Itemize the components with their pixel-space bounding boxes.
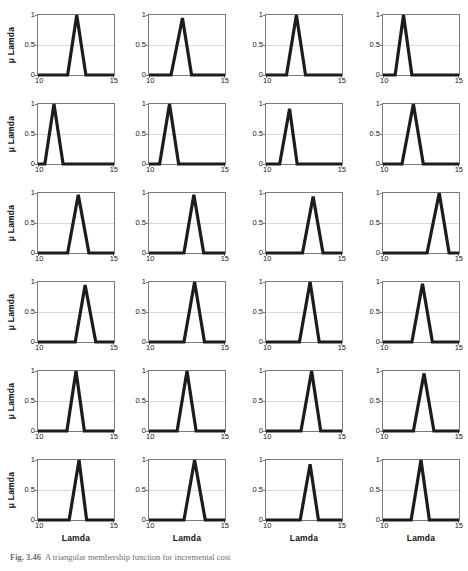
curve-path [149,282,225,342]
y-tick-label: 0.5 [370,41,380,49]
y-tick-label: 0.5 [25,397,35,405]
x-tick-label: 10 [380,344,388,352]
y-tick-label: 1 [376,189,380,197]
y-axis-label: μ Lamda [4,370,18,432]
membership-function-curve [383,193,459,253]
membership-function-curve [266,371,342,431]
y-tick-label: 0.5 [25,486,35,494]
plot-area: 10.501015 [265,370,343,432]
y-tick-label: 0.5 [136,308,146,316]
y-tick-label: 0.5 [370,486,380,494]
x-tick-label: 15 [338,344,346,352]
y-tick-label: 0.5 [25,41,35,49]
subplot-panel: μ Lamda10.501015 [0,93,117,182]
plot-area: 10.501015 [265,192,343,254]
x-tick-label: 10 [35,344,43,352]
y-tick-label: 1 [259,11,263,19]
y-tick-label: 1 [142,456,146,464]
y-tick-label: 0.5 [136,130,146,138]
plot-area: 10.501015 [37,281,115,343]
y-tick-label: 0.5 [253,397,263,405]
y-tick-label: 1 [376,367,380,375]
curve-path [38,15,114,75]
membership-function-curve [266,104,342,164]
x-tick-label: 10 [35,433,43,441]
plot-area: 10.501015 [148,103,226,165]
membership-function-curve [383,282,459,342]
y-axis-label-text: μ Lamda [6,205,16,241]
membership-function-curve [383,371,459,431]
y-tick-label: 0.5 [253,219,263,227]
membership-function-curve [38,460,114,520]
subplot-panel: 10.501015 [234,182,351,271]
x-tick-label: 10 [146,77,154,85]
subplot-panel: 10.501015 [234,271,351,360]
membership-function-curve [149,460,225,520]
x-tick-label: 15 [455,255,463,263]
y-axis-label: μ Lamda [4,281,18,343]
curve-path [38,195,114,253]
y-tick-label: 1 [31,278,35,286]
y-tick-label: 1 [376,100,380,108]
subplot-panel: 10.501015 [351,271,468,360]
curve-path [266,282,342,342]
plot-area: 10.501015 [265,281,343,343]
curve-path [149,195,225,253]
plot-area: 10.501015 [265,103,343,165]
y-axis-label: μ Lamda [4,14,18,76]
curve-path [266,109,342,164]
x-tick-label: 10 [146,255,154,263]
figure-root: μ Lamda10.50101510.50101510.50101510.501… [0,0,468,571]
y-axis-label-text: μ Lamda [6,472,16,508]
x-tick-label: 10 [146,166,154,174]
membership-function-curve [149,282,225,342]
y-tick-label: 0.5 [370,308,380,316]
x-tick-label: 15 [221,255,229,263]
x-tick-label: 15 [455,433,463,441]
membership-function-curve [266,282,342,342]
y-tick-label: 1 [142,100,146,108]
x-tick-label: 10 [380,166,388,174]
y-tick-label: 1 [31,367,35,375]
x-axis-label: Lamda [382,533,460,543]
subplot-panel: μ Lamda10.501015 [0,4,117,93]
y-tick-label: 1 [259,367,263,375]
plot-area: 10.501015 [382,192,460,254]
subplot-panel: 10.501015 [234,4,351,93]
curve-path [266,15,342,75]
x-tick-label: 10 [263,255,271,263]
y-axis-label: μ Lamda [4,103,18,165]
curve-path [38,371,114,431]
curve-path [38,285,114,342]
x-tick-label: 10 [146,344,154,352]
x-tick-label: 10 [263,77,271,85]
x-tick-label: 10 [146,522,154,530]
y-tick-label: 0.5 [25,308,35,316]
x-tick-label: 10 [263,344,271,352]
y-tick-label: 0.5 [253,41,263,49]
y-tick-label: 0.5 [25,219,35,227]
subplot-panel: 10.501015 [117,182,234,271]
x-tick-label: 10 [35,77,43,85]
membership-function-curve [38,371,114,431]
membership-function-curve [383,104,459,164]
y-axis-label-text: μ Lamda [6,27,16,63]
subplot-panel: 10.501015 [234,93,351,182]
membership-function-curve [266,193,342,253]
plot-area: 10.501015 [37,103,115,165]
x-tick-label: 10 [35,166,43,174]
subplot-panel: 10.501015 [351,360,468,449]
subplot-panel: 10.501015 [234,360,351,449]
curve-path [149,104,225,164]
subplot-panel: 10.501015 [351,182,468,271]
x-tick-label: 10 [263,166,271,174]
y-tick-label: 1 [142,278,146,286]
y-axis-label: μ Lamda [4,192,18,254]
subplot-panel: 10.501015 [117,271,234,360]
membership-function-curve [149,193,225,253]
x-axis-label: Lamda [37,533,115,543]
membership-function-curve [38,104,114,164]
curve-path [383,15,459,75]
y-tick-label: 1 [142,189,146,197]
y-tick-label: 1 [259,278,263,286]
